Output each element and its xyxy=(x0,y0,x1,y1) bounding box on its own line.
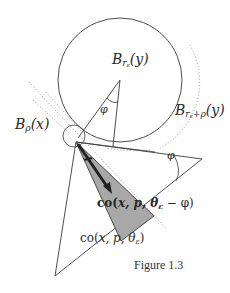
label-ball-y: Brε(y) xyxy=(112,52,149,70)
radius-line-down xyxy=(113,80,120,146)
dotted-line-2 xyxy=(46,92,82,132)
label-angle-center: φ xyxy=(100,104,108,115)
ball-x-circle xyxy=(63,125,85,147)
figure-caption: Figure 1.3 xyxy=(134,258,183,273)
label-angle-right: φ xyxy=(167,150,175,161)
label-ball-y-expanded: Brε+ρ(y) xyxy=(175,103,225,121)
label-ball-x: Bρ(x) xyxy=(15,117,49,133)
angle-arc-center xyxy=(107,98,118,103)
radius-line-left xyxy=(78,80,120,138)
figure-1-3-diagram xyxy=(0,0,230,293)
label-cone-outer: co(x, p, θε) xyxy=(80,232,144,246)
label-cone-shaded: co(x, p, θε − φ) xyxy=(97,197,194,211)
tangent-line xyxy=(76,142,155,152)
